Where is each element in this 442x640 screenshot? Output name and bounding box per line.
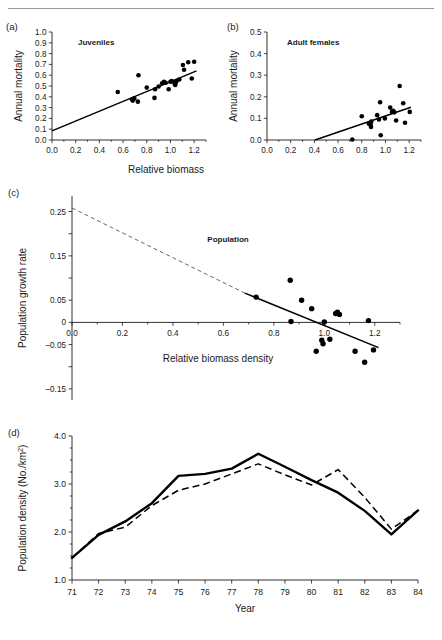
x-tick-label: 77 bbox=[227, 587, 237, 597]
data-point bbox=[288, 278, 293, 283]
chart-text: –0.05 bbox=[46, 341, 67, 350]
chart-text: 0.4 bbox=[35, 93, 47, 102]
data-point bbox=[299, 298, 304, 303]
panel-letter: (d) bbox=[8, 427, 20, 438]
chart-text: 0.1 bbox=[35, 125, 47, 134]
data-point bbox=[182, 68, 187, 73]
figure-caption-strip bbox=[0, 628, 442, 640]
chart-text: 1.0 bbox=[380, 146, 392, 155]
chart-text: 0.3 bbox=[250, 71, 262, 80]
series-label: Population bbox=[207, 235, 248, 244]
x-tick-label: 78 bbox=[254, 587, 264, 597]
panel-letter: (c) bbox=[8, 187, 19, 198]
x-axis-title: Relative biomass density bbox=[163, 353, 274, 364]
chart-text: 3.0 bbox=[54, 479, 66, 489]
chart-text: 0.9 bbox=[35, 39, 47, 48]
data-point bbox=[397, 84, 402, 89]
panel-letter: (b) bbox=[227, 21, 239, 32]
y-axis-title: Annual mortality bbox=[228, 50, 239, 122]
data-point bbox=[115, 90, 120, 95]
chart-text: –0.15 bbox=[46, 385, 67, 394]
data-point bbox=[322, 319, 327, 324]
chart-text: 0.6 bbox=[117, 146, 129, 155]
data-point bbox=[378, 133, 383, 138]
shared-x-axis-title: Relative biomass bbox=[128, 164, 204, 175]
y-axis-title: Population growth rate bbox=[17, 248, 28, 349]
chart-text: 0.4 bbox=[250, 50, 262, 59]
chart-text: 0.4 bbox=[167, 329, 179, 338]
chart-text: 0.25 bbox=[50, 208, 66, 217]
data-point bbox=[375, 113, 380, 118]
chart-text: 0.6 bbox=[218, 329, 230, 338]
chart-text: 0.2 bbox=[70, 146, 82, 155]
data-point bbox=[166, 87, 171, 92]
chart-text: 0.8 bbox=[356, 146, 368, 155]
data-point bbox=[401, 101, 406, 106]
x-tick-label: 74 bbox=[147, 587, 157, 597]
axis-lines bbox=[52, 32, 206, 140]
chart-text: 0.7 bbox=[35, 60, 47, 69]
header-divider bbox=[8, 8, 434, 9]
chart-text: 1.2 bbox=[188, 146, 200, 155]
chart-text: 0.0 bbox=[46, 146, 58, 155]
chart-element: ) bbox=[17, 445, 28, 448]
x-tick-label: 76 bbox=[200, 587, 210, 597]
x-axis-title: Year bbox=[235, 603, 256, 614]
data-point bbox=[352, 349, 357, 354]
chart-text: Population density (No./km2) bbox=[16, 445, 28, 572]
data-point bbox=[132, 96, 137, 101]
x-tick-label: 81 bbox=[333, 587, 343, 597]
x-tick-label: 79 bbox=[280, 587, 290, 597]
data-point bbox=[314, 349, 319, 354]
chart-text: 0.8 bbox=[35, 50, 47, 59]
data-point bbox=[186, 60, 191, 65]
data-point bbox=[371, 347, 376, 352]
data-point bbox=[288, 319, 293, 324]
x-tick-label: 75 bbox=[174, 587, 184, 597]
panel-c-chart: (c)–0.15–0.0500.050.150.250.00.20.40.60.… bbox=[0, 180, 442, 418]
data-point bbox=[181, 63, 186, 68]
chart-element: Population density (No./km bbox=[17, 452, 28, 572]
chart-text: 0.1 bbox=[250, 114, 262, 123]
panel-letter: (a) bbox=[6, 21, 18, 32]
chart-text: 0.4 bbox=[309, 146, 321, 155]
chart-text: 4.0 bbox=[54, 431, 66, 441]
regression-line bbox=[245, 293, 379, 348]
y-axis-title: Population density (No./km2) bbox=[16, 445, 28, 572]
data-point bbox=[407, 110, 412, 115]
data-point bbox=[189, 76, 194, 81]
data-point bbox=[152, 96, 157, 101]
chart-text: 0.8 bbox=[268, 329, 280, 338]
extrapolation-line bbox=[72, 208, 245, 293]
x-tick-label: 83 bbox=[387, 587, 397, 597]
panel-b-chart: (b)0.00.10.20.30.40.50.00.20.40.60.81.01… bbox=[221, 18, 442, 180]
chart-text: 0.2 bbox=[250, 93, 262, 102]
chart-text: 1.2 bbox=[369, 329, 381, 338]
data-point bbox=[136, 99, 141, 104]
chart-text: 1.0 bbox=[165, 146, 177, 155]
scatter-points bbox=[115, 59, 196, 104]
scatter-points bbox=[350, 84, 412, 142]
data-point bbox=[369, 119, 374, 124]
data-point bbox=[394, 118, 399, 123]
chart-text: 0.0 bbox=[250, 136, 262, 145]
figure-sheet: (a)0.00.10.20.30.40.50.60.70.80.91.00.00… bbox=[0, 0, 442, 640]
data-point bbox=[359, 114, 364, 119]
data-point bbox=[369, 125, 374, 130]
y-axis-title: Annual mortality bbox=[13, 50, 24, 122]
chart-text: 0.0 bbox=[66, 329, 78, 338]
data-point bbox=[366, 318, 371, 323]
chart-text: 0.6 bbox=[332, 146, 344, 155]
chart-text: 0.15 bbox=[50, 252, 66, 261]
data-point bbox=[378, 100, 383, 105]
chart-text: 0.4 bbox=[94, 146, 106, 155]
panel-a-chart: (a)0.00.10.20.30.40.50.60.70.80.91.00.00… bbox=[0, 18, 221, 180]
data-point bbox=[403, 120, 408, 125]
x-tick-label: 82 bbox=[360, 587, 370, 597]
series-label: Adult females bbox=[287, 38, 340, 47]
data-point bbox=[337, 312, 342, 317]
x-tick-label: 71 bbox=[67, 587, 77, 597]
x-tick-label: 84 bbox=[413, 587, 423, 597]
chart-text: 1.0 bbox=[35, 28, 47, 37]
x-tick-label: 72 bbox=[94, 587, 104, 597]
